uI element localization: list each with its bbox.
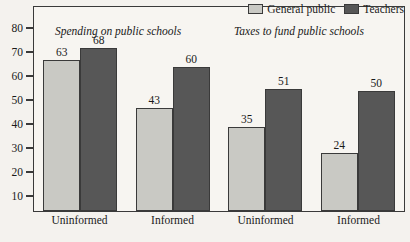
y-axis-tick: 60 [12,70,34,82]
bar-teachers [173,67,210,211]
y-axis-tick: 20 [12,166,34,178]
y-axis-tick-label: 50 [12,94,27,106]
bars-container: 63 68 43 60 35 51 [34,7,404,211]
legend-swatch-general-public-icon [248,4,263,14]
y-axis: 80 70 60 50 40 30 20 10 [0,6,33,212]
x-axis-label: Informed [312,214,405,226]
y-axis-tick-mark [26,195,33,196]
bar-item-general-public: 43 [136,7,173,211]
y-axis-tick: 40 [12,118,34,130]
bar-teachers [358,91,395,211]
y-axis-tick: 30 [12,142,34,154]
bar-group: 43 60 [127,7,220,211]
bar-general-public [43,60,80,211]
bar-group: 24 50 [312,7,405,211]
y-axis-tick-label: 30 [12,142,27,154]
y-axis-tick-mark [26,147,33,148]
chart-legend: General public Teachers [248,3,404,15]
bar-item-teachers: 51 [265,7,302,211]
bar-chart: 80 70 60 50 40 30 20 10 [0,0,410,242]
bar-item-teachers: 68 [80,7,117,211]
bar-item-general-public: 35 [228,7,265,211]
bar-value-label: 60 [186,53,198,66]
bar-group: 63 68 [34,7,127,211]
bar-teachers [80,48,117,211]
y-axis-tick: 80 [12,22,34,34]
y-axis-tick-mark [26,27,33,28]
bar-value-label: 63 [56,46,68,59]
legend-label-teachers: Teachers [363,3,404,15]
legend-label-general-public: General public [267,3,335,15]
x-axis-label: Uninformed [219,214,312,226]
y-axis-tick-label: 40 [12,118,27,130]
y-axis-tick: 50 [12,94,34,106]
legend-item-teachers: Teachers [344,3,404,15]
bar-value-label: 51 [278,75,290,88]
bar-item-teachers: 60 [173,7,210,211]
y-axis-tick-label: 10 [12,190,27,202]
bar-item-teachers: 50 [358,7,395,211]
y-axis-tick: 10 [12,190,34,202]
bar-general-public [136,108,173,211]
y-axis-tick-label: 80 [12,22,27,34]
panel-title-taxes: Taxes to fund public schools [234,25,364,37]
legend-item-general-public: General public [248,3,335,15]
bar-general-public [321,153,358,211]
y-axis-tick-mark [26,51,33,52]
panel-title-spending: Spending on public schools [55,25,181,37]
y-axis-tick-label: 70 [12,46,27,58]
x-axis-label: Uninformed [33,214,126,226]
y-axis-tick-mark [26,171,33,172]
legend-swatch-teachers-icon [344,4,359,14]
bar-teachers [265,89,302,211]
y-axis-tick-mark [26,123,33,124]
bar-item-general-public: 24 [321,7,358,211]
bar-group: 35 51 [219,7,312,211]
y-axis-tick-mark [26,99,33,100]
bar-item-general-public: 63 [43,7,80,211]
bar-value-label: 50 [371,77,383,90]
x-axis-labels: Uninformed Informed Uninformed Informed [33,214,405,226]
x-axis-label: Informed [126,214,219,226]
y-axis-tick-label: 20 [12,166,27,178]
bar-value-label: 43 [149,94,161,107]
y-axis-tick: 70 [12,46,34,58]
bar-value-label: 24 [334,139,346,152]
bar-general-public [228,127,265,211]
y-axis-tick-mark [26,75,33,76]
y-axis-tick-label: 60 [12,70,27,82]
bar-value-label: 35 [241,113,253,126]
